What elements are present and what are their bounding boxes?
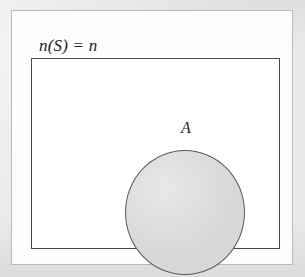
figure-panel: n(S) = n A n(A) = k [11, 10, 293, 265]
set-diagram-figure: n(S) = n A n(A) = k [0, 0, 305, 277]
set-a-circle: n(A) = k [125, 150, 245, 275]
universal-set-rectangle: A n(A) = k [31, 58, 280, 249]
universal-set-count-label: n(S) = n [39, 37, 97, 54]
set-a-name-label: A [181, 120, 191, 136]
